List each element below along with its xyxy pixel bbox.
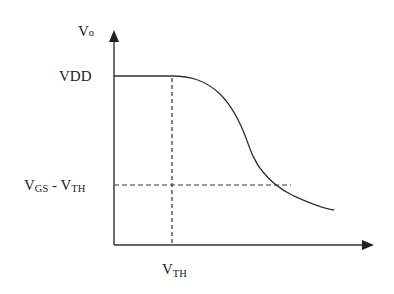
output-curve (172, 76, 334, 210)
vdd-label: VDD (59, 68, 92, 84)
x-axis-arrow-icon (362, 240, 374, 250)
vgs-minus-vth-label: VGS - VTH (24, 177, 86, 194)
transfer-curve-diagram: Vo VDD VGS - VTH VTH (0, 0, 394, 294)
y-axis-label: Vo (78, 23, 94, 39)
y-axis-arrow-icon (109, 30, 119, 42)
vth-label: VTH (162, 261, 187, 279)
